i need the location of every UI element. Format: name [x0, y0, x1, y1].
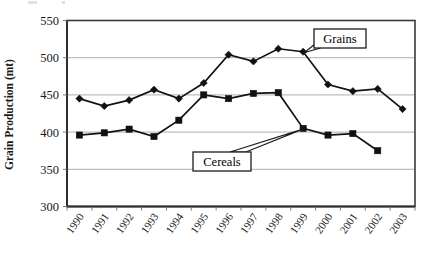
- callout-leader-cereals: [230, 129, 302, 152]
- callout-grains: Grains: [304, 29, 366, 53]
- grain-production-line-chart: 300350400450500550 Grain Production (mt)…: [0, 0, 429, 267]
- data-point-cereals-1998: [275, 90, 281, 96]
- x-tick-label-1994: 1994: [163, 210, 186, 235]
- x-tick-label-2001: 2001: [337, 211, 359, 236]
- callout-cereals: Cereals: [193, 129, 302, 171]
- x-tick-label-2002: 2002: [362, 211, 384, 236]
- data-point-grains-1992: [126, 97, 133, 104]
- data-point-cereals-1992: [126, 126, 132, 132]
- scan-artifact-top: [28, 1, 65, 4]
- callout-label-cereals: Cereals: [203, 155, 241, 169]
- data-point-cereals-1990: [76, 132, 82, 138]
- x-tick-label-1993: 1993: [138, 210, 161, 235]
- series-layer: [76, 45, 406, 154]
- data-point-cereals-1994: [176, 117, 182, 123]
- y-tick-label-450: 450: [40, 88, 59, 102]
- x-tick-label-1991: 1991: [88, 211, 110, 236]
- x-tick-label-1997: 1997: [238, 210, 261, 235]
- x-tick-label-2003: 2003: [387, 210, 410, 235]
- data-point-cereals-1997: [250, 90, 256, 96]
- y-tick-label-500: 500: [40, 51, 59, 65]
- data-point-cereals-1993: [151, 133, 157, 139]
- y-tick-label-350: 350: [40, 163, 59, 177]
- y-tick-label-550: 550: [40, 14, 59, 28]
- data-point-grains-1998: [275, 45, 282, 52]
- x-tick-label-1992: 1992: [113, 211, 135, 236]
- data-point-grains-1993: [150, 86, 157, 93]
- chart-container: 300350400450500550 Grain Production (mt)…: [0, 0, 429, 267]
- y-axis-ticks: 300350400450500550: [40, 14, 67, 214]
- data-point-cereals-1996: [225, 96, 231, 102]
- y-axis-title: Grain Production (mt): [3, 59, 16, 170]
- y-tick-label-400: 400: [40, 126, 59, 140]
- x-tick-label-1996: 1996: [213, 210, 236, 235]
- x-tick-label-1998: 1998: [262, 210, 285, 235]
- data-point-cereals-2002: [375, 148, 381, 154]
- data-point-cereals-1999: [300, 125, 306, 131]
- data-point-cereals-1991: [101, 130, 107, 136]
- data-point-grains-1991: [101, 102, 108, 109]
- data-point-grains-1990: [76, 95, 83, 102]
- x-tick-label-2000: 2000: [312, 210, 335, 235]
- x-tick-label-1995: 1995: [188, 210, 211, 235]
- y-tick-label-300: 300: [40, 200, 59, 214]
- x-axis-labels: 1990199119921993199419951996199719981999…: [64, 210, 410, 235]
- data-point-cereals-2000: [325, 132, 331, 138]
- data-point-grains-2001: [349, 88, 356, 95]
- data-point-cereals-2001: [350, 130, 356, 136]
- callout-label-grains: Grains: [323, 32, 356, 46]
- data-point-grains-1997: [250, 58, 257, 65]
- x-tick-label-1999: 1999: [287, 210, 310, 235]
- data-point-cereals-1995: [201, 92, 207, 98]
- x-tick-label-1990: 1990: [64, 210, 87, 235]
